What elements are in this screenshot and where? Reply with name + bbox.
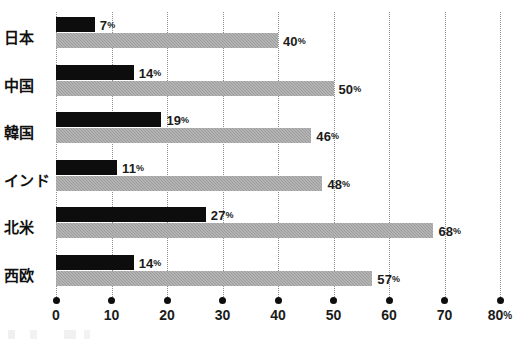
bar-value-label: 40% — [283, 34, 306, 49]
axis-tick-label-30: 30 — [215, 307, 231, 323]
axis-tick-dot-50 — [330, 297, 337, 304]
bar-dark-series-韓国 — [56, 112, 161, 127]
bar-value-label: 7% — [100, 18, 115, 33]
category-label-日本: 日本 — [4, 26, 52, 47]
bar-group: 7%40% — [56, 17, 500, 48]
bar-light-series-日本 — [56, 33, 278, 48]
bar-value-label: 46% — [316, 129, 339, 144]
category-label-北米: 北米 — [4, 216, 52, 237]
scan-artifact — [4, 330, 109, 339]
axis-tick-label-40: 40 — [270, 307, 286, 323]
bar-group: 14%57% — [56, 255, 500, 286]
category-label-韓国: 韓国 — [4, 121, 52, 142]
bar-value-label: 48% — [327, 177, 350, 192]
bar-value-label: 19% — [166, 113, 189, 128]
plot-area: 7%40%14%50%19%46%11%48%27%68%14%57% — [56, 12, 500, 297]
bar-group: 27%68% — [56, 207, 500, 238]
bar-group: 14%50% — [56, 65, 500, 96]
axis-tick-label-20: 20 — [159, 307, 175, 323]
bar-group: 11%48% — [56, 160, 500, 191]
bar-chart: 7%40%14%50%19%46%11%48%27%68%14%57% 日本中国… — [0, 0, 523, 342]
bar-light-series-北米 — [56, 223, 433, 238]
bar-value-label: 50% — [339, 82, 362, 97]
axis-tick-dot-0 — [53, 297, 60, 304]
axis-tick-label-50: 50 — [326, 307, 342, 323]
bar-dark-series-西欧 — [56, 255, 134, 270]
bar-value-label: 57% — [377, 272, 400, 287]
axis-tick-label-10: 10 — [104, 307, 120, 323]
axis-tick-label-0: 0 — [52, 307, 60, 323]
axis-tick-label-80: 80% — [488, 307, 512, 323]
bar-light-series-西欧 — [56, 271, 372, 286]
category-label-インド: インド — [4, 169, 52, 190]
axis-tick-dot-40 — [275, 297, 282, 304]
bar-value-label: 14% — [139, 66, 162, 81]
bar-value-label: 27% — [211, 208, 234, 223]
gridline-80 — [500, 12, 502, 297]
axis-tick-dot-30 — [219, 297, 226, 304]
bar-light-series-韓国 — [56, 128, 311, 143]
category-label-西欧: 西欧 — [4, 264, 52, 285]
bar-dark-series-北米 — [56, 207, 206, 222]
bar-value-label: 14% — [139, 256, 162, 271]
bar-light-series-中国 — [56, 81, 334, 96]
bar-dark-series-日本 — [56, 17, 95, 32]
axis-tick-label-70: 70 — [437, 307, 453, 323]
bar-dark-series-インド — [56, 160, 117, 175]
axis-tick-dot-60 — [386, 297, 393, 304]
bar-dark-series-中国 — [56, 65, 134, 80]
bar-value-label: 11% — [122, 161, 144, 176]
axis-tick-dot-70 — [441, 297, 448, 304]
category-label-中国: 中国 — [4, 74, 52, 95]
axis-tick-label-60: 60 — [381, 307, 397, 323]
axis-tick-dot-10 — [108, 297, 115, 304]
bar-group: 19%46% — [56, 112, 500, 143]
bar-value-label: 68% — [438, 224, 461, 239]
axis-tick-dot-20 — [164, 297, 171, 304]
axis-tick-dot-80 — [497, 297, 504, 304]
bar-light-series-インド — [56, 176, 322, 191]
